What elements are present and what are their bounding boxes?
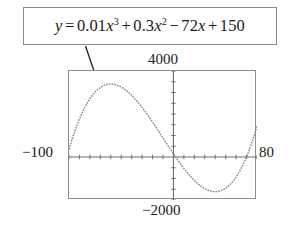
equation-term2-coeff: 0.3 — [133, 16, 154, 35]
figure-screenshot: y=0.01x3+0.3x2−72x+150 4000 −2000 −100 8… — [0, 0, 295, 226]
x-max-label: 80 — [259, 145, 274, 160]
equation-text: y=0.01x3+0.3x2−72x+150 — [55, 18, 245, 35]
equation-equals: = — [63, 16, 77, 35]
equation-lhs: y — [55, 16, 62, 35]
equation-term1-var: x — [106, 16, 113, 35]
cubic-curve — [69, 84, 257, 191]
equation-op1: + — [119, 16, 133, 35]
y-max-label: 4000 — [148, 52, 178, 67]
equation-term4-constant: 150 — [220, 16, 245, 35]
y-min-label: −2000 — [142, 203, 180, 218]
equation-term1-coeff: 0.01 — [77, 16, 106, 35]
equation-term3-coeff: 72 — [181, 16, 198, 35]
plot-area — [69, 71, 257, 200]
graph-window-frame — [68, 70, 256, 199]
equation-op2: − — [167, 16, 181, 35]
equation-term2-var: x — [154, 16, 161, 35]
x-min-label: −100 — [22, 145, 53, 160]
equation-callout-box: y=0.01x3+0.3x2−72x+150 — [23, 7, 277, 45]
equation-op3: + — [205, 16, 219, 35]
